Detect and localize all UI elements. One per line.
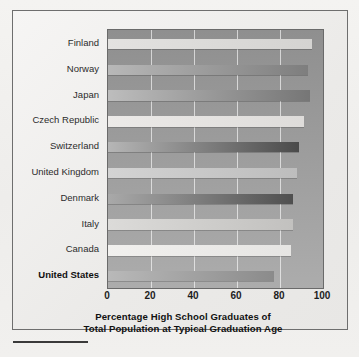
- value-axis-ticks: 020406080100: [107, 290, 322, 304]
- axis-title-line-1: Percentage High School Graduates of: [27, 311, 339, 323]
- bar-row: [108, 39, 323, 50]
- bar-row: [108, 271, 323, 282]
- xtick-0: 0: [104, 290, 110, 301]
- category-label-norway: Norway: [67, 64, 99, 74]
- bar-series: [108, 30, 323, 288]
- category-label-japan: Japan: [73, 90, 99, 100]
- bar-row: [108, 90, 323, 101]
- xtick-60: 60: [230, 290, 241, 301]
- bar-denmark: [108, 194, 293, 205]
- xtick-100: 100: [314, 290, 331, 301]
- bar-norway: [108, 65, 308, 76]
- bar-row: [108, 245, 323, 256]
- bar-united-states: [108, 271, 274, 282]
- bar-italy: [108, 219, 293, 230]
- chart-frame: FinlandNorwayJapanCzech RepublicSwitzerl…: [12, 10, 348, 330]
- footer-rule: [13, 341, 88, 343]
- bar-row: [108, 142, 323, 153]
- bar-row: [108, 116, 323, 127]
- bar-canada: [108, 245, 291, 256]
- page-background: FinlandNorwayJapanCzech RepublicSwitzerl…: [0, 0, 359, 357]
- axis-title: Percentage High School Graduates ofTotal…: [27, 311, 339, 334]
- category-label-italy: Italy: [82, 219, 99, 229]
- category-label-united-states: United States: [38, 270, 99, 280]
- bar-row: [108, 168, 323, 179]
- category-label-finland: Finland: [68, 38, 99, 48]
- plot-area: [107, 29, 324, 289]
- axis-title-line-2: Total Population at Typical Graduation A…: [27, 323, 339, 335]
- category-label-canada: Canada: [66, 244, 99, 254]
- category-label-czech-republic: Czech Republic: [32, 115, 99, 125]
- bar-row: [108, 219, 323, 230]
- bar-finland: [108, 39, 312, 50]
- category-label-switzerland: Switzerland: [50, 141, 99, 151]
- category-axis-labels: FinlandNorwayJapanCzech RepublicSwitzerl…: [13, 29, 105, 287]
- bar-czech-republic: [108, 116, 304, 127]
- bar-row: [108, 194, 323, 205]
- category-label-united-kingdom: United Kingdom: [31, 167, 99, 177]
- bar-switzerland: [108, 142, 299, 153]
- xtick-80: 80: [273, 290, 284, 301]
- category-label-denmark: Denmark: [60, 193, 99, 203]
- xtick-20: 20: [144, 290, 155, 301]
- xtick-40: 40: [187, 290, 198, 301]
- bar-row: [108, 65, 323, 76]
- bar-united-kingdom: [108, 168, 297, 179]
- bar-japan: [108, 90, 310, 101]
